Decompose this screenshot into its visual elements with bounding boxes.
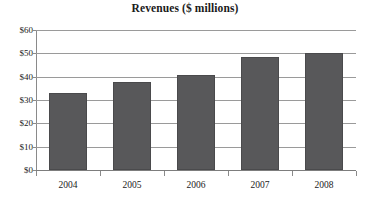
x-axis-line: [36, 170, 356, 171]
y-axis-label-30: $30: [3, 96, 33, 105]
y-axis-label-50: $50: [3, 49, 33, 58]
gridline-60: [36, 30, 356, 31]
y-axis-tick-labels: $0$10$20$30$40$50$60: [0, 0, 33, 206]
y-axis-label-0: $0: [3, 166, 33, 175]
x-axis-tick-2: [164, 171, 165, 176]
chart-title: Revenues ($ millions): [0, 2, 370, 14]
x-axis-label-2004: 2004: [36, 180, 100, 191]
x-axis-label-2006: 2006: [164, 180, 228, 191]
x-axis-label-2008: 2008: [292, 180, 356, 191]
bar-2008: [305, 53, 343, 170]
x-axis-tick-1: [100, 171, 101, 176]
x-axis-tick-4: [292, 171, 293, 176]
bar-2005: [113, 82, 151, 170]
plot-area: [36, 30, 356, 170]
x-axis-tick-5: [356, 171, 357, 176]
bar-2004: [49, 93, 87, 170]
y-axis-label-60: $60: [3, 26, 33, 35]
x-axis-label-2005: 2005: [100, 180, 164, 191]
x-axis-tick-3: [228, 171, 229, 176]
x-axis-tick-0: [36, 171, 37, 176]
bar-2007: [241, 57, 279, 170]
y-axis-label-40: $40: [3, 73, 33, 82]
y-axis-label-10: $10: [3, 143, 33, 152]
revenues-bar-chart: Revenues ($ millions) $0$10$20$30$40$50$…: [0, 0, 370, 206]
x-axis-label-2007: 2007: [228, 180, 292, 191]
bar-2006: [177, 75, 215, 170]
y-axis-label-20: $20: [3, 119, 33, 128]
